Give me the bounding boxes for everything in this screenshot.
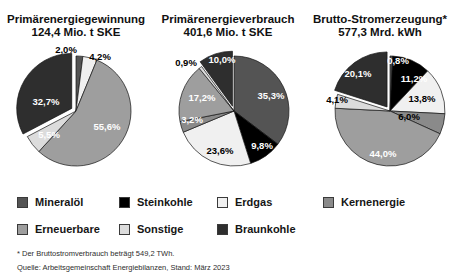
slice-label: 20,1% [345, 68, 372, 79]
legend-item-erdgas: Erdgas [217, 196, 323, 208]
slice-label: 13,8% [409, 93, 436, 104]
chart-title-primaerenergieverbrauch: Primärenergieverbrauch 401,6 Mio. t SKE [152, 13, 304, 39]
legend-item-erneuerbare: Erneuerbare [17, 223, 119, 235]
chart-title-line2: 401,6 Mio. t SKE [152, 26, 304, 39]
braunkohle-swatch-icon [217, 224, 228, 235]
slice-label: 4,1% [326, 94, 348, 105]
slice-label: 32,7% [33, 96, 60, 107]
mineraloel-swatch-icon [17, 197, 28, 208]
chart-title-line2: 577,3 Mrd. kWh [304, 26, 456, 39]
pie-chart-brutto-stromerzeugung: 0,8%11,2%13,8%6,0%44,0%4,1%20,1% [304, 41, 456, 189]
legend-item-braunkohle: Braunkohle [217, 223, 323, 235]
source-note: Quelle: Arbeitsgemeinschaft Energiebilan… [17, 261, 230, 275]
chart-title-line1: Brutto-Stromerzeugung* [304, 13, 456, 26]
chart-title-line1: Primärenergieverbrauch [152, 13, 304, 26]
slice-label: 3,2% [181, 114, 203, 125]
slice-label: 2,0% [55, 44, 77, 55]
slice-label: 9,8% [251, 140, 273, 151]
legend-item-mineraloel: Mineralöl [17, 196, 119, 208]
energy-infographic: Primärenergiegewinnung 124,4 Mio. t SKE … [0, 0, 456, 276]
slice-label: 4,2% [89, 51, 111, 62]
slice-label: 10,0% [209, 54, 236, 65]
legend-label: Kernenergie [341, 196, 405, 208]
chart-title-brutto-stromerzeugung: Brutto-Stromerzeugung* 577,3 Mrd. kWh [304, 13, 456, 39]
slice-label: 0,9% [175, 57, 197, 68]
slice-label: 44,0% [370, 148, 397, 159]
slice-label: 11,2% [401, 73, 428, 84]
legend-label: Erneuerbare [35, 223, 100, 235]
kernenergie-swatch-icon [323, 197, 334, 208]
legend-label: Erdgas [235, 196, 272, 208]
legend-item-steinkohle: Steinkohle [119, 196, 217, 208]
slice-label: 6,0% [398, 111, 420, 122]
legend-item-kernenergie: Kernenergie [323, 196, 405, 208]
legend-item-sonstige: Sonstige [119, 223, 217, 235]
slice-label: 0,8% [387, 55, 409, 66]
legend-label: Sonstige [137, 223, 183, 235]
slice-label: 35,3% [258, 90, 285, 101]
slice-label: 23,6% [207, 145, 234, 156]
pie-chart-primaerenergieverbrauch: 35,3%9,8%23,6%3,2%17,2%0,9%10,0% [152, 41, 304, 189]
erneuerbare-swatch-icon [17, 224, 28, 235]
legend: Mineralöl Steinkohle Erdgas Kernenergie … [17, 196, 405, 235]
chart-title-primaerenergiegewinnung: Primärenergiegewinnung 124,4 Mio. t SKE [0, 13, 152, 39]
footnote-bruttostromverbrauch: * Der Bruttostromverbrauch beträgt 549,2… [17, 247, 230, 261]
chart-title-line1: Primärenergiegewinnung [0, 13, 152, 26]
chart-title-line2: 124,4 Mio. t SKE [0, 26, 152, 39]
erdgas-swatch-icon [217, 197, 228, 208]
steinkohle-swatch-icon [119, 197, 130, 208]
legend-label: Steinkohle [137, 196, 193, 208]
slice-label: 5,5% [38, 129, 60, 140]
sonstige-swatch-icon [119, 224, 130, 235]
chart-titles-row: Primärenergiegewinnung 124,4 Mio. t SKE … [0, 0, 456, 39]
slice-label: 17,2% [189, 92, 216, 103]
slice-label: 55,6% [94, 121, 121, 132]
pie-charts-row: 2,0%4,2%55,6%5,5%32,7% 35,3%9,8%23,6%3,2… [0, 41, 456, 189]
footnotes: * Der Bruttostromverbrauch beträgt 549,2… [17, 247, 230, 275]
legend-label: Braunkohle [235, 223, 296, 235]
pie-chart-primaerenergiegewinnung: 2,0%4,2%55,6%5,5%32,7% [0, 41, 152, 189]
legend-label: Mineralöl [35, 196, 83, 208]
